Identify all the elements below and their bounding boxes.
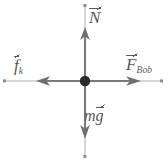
guide-tick-left: [3, 79, 6, 82]
guide-tick-right: [160, 79, 163, 82]
label-applied-force-subscript: Bob: [136, 65, 152, 75]
label-applied-force: FBob: [126, 56, 152, 76]
center-particle-dot: [80, 76, 90, 86]
label-normal-force: N: [89, 9, 100, 26]
label-friction-force-symbol: f: [14, 57, 19, 74]
label-normal-force-symbol: N: [89, 9, 100, 26]
label-weight-force: mg: [84, 108, 104, 124]
free-body-diagram: N fk FBob mg: [0, 0, 168, 163]
guide-tick-bottom: [83, 155, 86, 158]
label-weight-force-symbol: g: [96, 108, 104, 124]
label-friction-force: fk: [14, 57, 23, 77]
guide-tick-top: [83, 4, 86, 7]
label-applied-force-symbol: F: [126, 56, 136, 73]
label-weight-force-mass: m: [84, 107, 96, 124]
force-vectors-canvas: [0, 0, 168, 163]
label-friction-force-subscript: k: [19, 66, 23, 76]
